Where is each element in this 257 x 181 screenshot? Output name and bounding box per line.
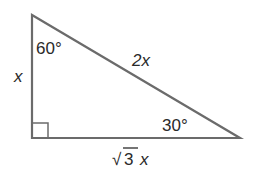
hypotenuse-label: 2x [131, 51, 150, 70]
triangle [32, 15, 240, 138]
right-angle-marker [32, 123, 48, 138]
angle-60-label: 60° [36, 39, 62, 58]
side-x-label: x [13, 67, 23, 86]
angle-30-label: 30° [162, 116, 188, 135]
bottom-variable: x [139, 150, 149, 169]
triangle-diagram: 60° 30° x 2x √ 3 x [0, 0, 257, 181]
radicand: 3 [124, 150, 133, 169]
bottom-side-label: √ 3 x [112, 148, 149, 169]
radical-sign: √ [112, 150, 122, 169]
